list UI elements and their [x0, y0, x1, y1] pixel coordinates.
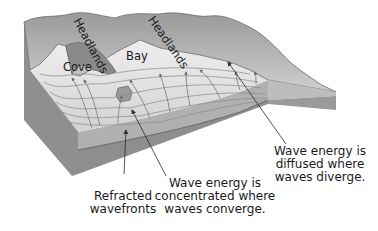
label-bay: Bay — [126, 50, 148, 62]
callout-energy-diffused: Wave energy is diffused where waves dive… — [268, 145, 372, 184]
label-cove: Cove — [63, 61, 92, 73]
callout-energy-concentrated: Wave energy is concentrated where waves … — [152, 177, 278, 216]
callout-concentrated-line-3: waves converge. — [152, 203, 278, 216]
callout-diffused-line-3: waves diverge. — [268, 171, 372, 184]
